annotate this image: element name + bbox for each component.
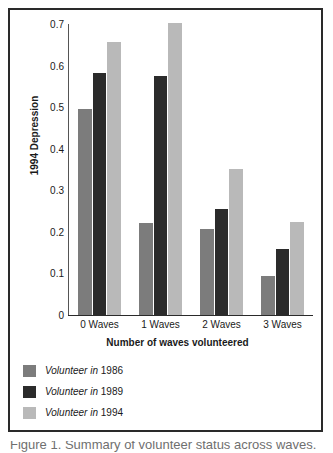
y-tick-label: 0.7 bbox=[34, 19, 64, 30]
x-axis-tick-labels: 0 Waves1 Waves2 Waves3 Waves bbox=[69, 319, 313, 337]
chart-legend: Volunteer in 1986Volunteer in 1989Volunt… bbox=[23, 360, 243, 423]
bar bbox=[93, 73, 107, 315]
y-tick-label: 0.4 bbox=[34, 143, 64, 154]
x-tick-label: 0 Waves bbox=[80, 319, 119, 330]
bar bbox=[107, 42, 121, 315]
legend-item: Volunteer in 1989 bbox=[23, 381, 243, 402]
y-tick-label: 0.5 bbox=[34, 102, 64, 113]
bar bbox=[229, 169, 243, 315]
bar bbox=[200, 229, 214, 315]
figure-caption: Figure 1. Summary of volunteer status ac… bbox=[10, 441, 323, 452]
bar bbox=[168, 23, 182, 315]
bar bbox=[78, 109, 92, 315]
x-tick-label: 1 Waves bbox=[141, 319, 180, 330]
figure-caption-sliver: Figure 1. Summary of volunteer status ac… bbox=[10, 441, 323, 453]
x-tick-label: 3 Waves bbox=[263, 319, 302, 330]
bar bbox=[154, 76, 168, 315]
y-tick-label: 0.2 bbox=[34, 226, 64, 237]
legend-label-name: Volunteer in bbox=[45, 407, 101, 418]
figure-frame: 1994 Depression 00.10.20.30.40.50.60.7 0… bbox=[8, 8, 323, 432]
bar-group bbox=[130, 24, 191, 315]
bar-group bbox=[252, 24, 313, 315]
legend-item: Volunteer in 1994 bbox=[23, 402, 243, 423]
y-tick-label: 0 bbox=[34, 310, 64, 321]
x-axis-line bbox=[68, 315, 313, 316]
legend-swatch bbox=[23, 407, 36, 419]
legend-label: Volunteer in 1986 bbox=[45, 365, 123, 376]
bar bbox=[276, 249, 290, 315]
y-tick-label: 0.3 bbox=[34, 185, 64, 196]
bar-group bbox=[191, 24, 252, 315]
bar bbox=[139, 223, 153, 315]
legend-label-year: 1989 bbox=[101, 386, 123, 397]
legend-label-year: 1994 bbox=[101, 407, 123, 418]
legend-label-year: 1986 bbox=[101, 365, 123, 376]
legend-swatch bbox=[23, 365, 36, 377]
bar bbox=[215, 209, 229, 315]
x-axis-title: Number of waves volunteered bbox=[40, 337, 315, 348]
plot-area bbox=[69, 24, 313, 315]
bar bbox=[261, 276, 275, 315]
x-tick-label: 2 Waves bbox=[202, 319, 241, 330]
y-tick-label: 0.1 bbox=[34, 268, 64, 279]
y-tick-label: 0.6 bbox=[34, 60, 64, 71]
legend-swatch bbox=[23, 386, 36, 398]
legend-label: Volunteer in 1994 bbox=[45, 407, 123, 418]
bar-chart: 1994 Depression 00.10.20.30.40.50.60.7 0… bbox=[10, 10, 321, 430]
legend-item: Volunteer in 1986 bbox=[23, 360, 243, 381]
bar bbox=[290, 222, 304, 315]
bar-group bbox=[69, 24, 130, 315]
legend-label-name: Volunteer in bbox=[45, 365, 101, 376]
legend-label-name: Volunteer in bbox=[45, 386, 101, 397]
legend-label: Volunteer in 1989 bbox=[45, 386, 123, 397]
